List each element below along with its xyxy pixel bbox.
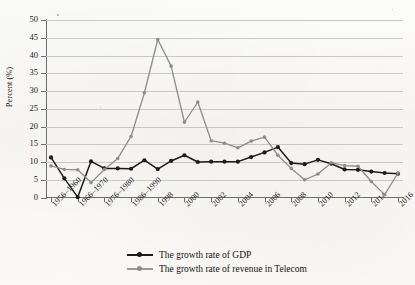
series-plot bbox=[0, 0, 415, 285]
chart-screenshot: 50454035302520151050 Percent (%) 1956–19… bbox=[0, 0, 415, 285]
data-point bbox=[262, 150, 266, 154]
data-point bbox=[116, 166, 120, 170]
data-point bbox=[183, 120, 187, 124]
data-point bbox=[370, 180, 374, 184]
legend-label-telecom: The growth rate of revenue in Telecom bbox=[159, 264, 307, 275]
data-point bbox=[209, 139, 213, 143]
data-point bbox=[89, 159, 93, 163]
data-point bbox=[356, 164, 360, 168]
data-point bbox=[316, 172, 320, 176]
data-point bbox=[369, 169, 373, 173]
data-point bbox=[196, 100, 200, 104]
series-line bbox=[51, 147, 398, 197]
data-point bbox=[263, 135, 267, 139]
data-point bbox=[329, 161, 333, 165]
data-point bbox=[343, 167, 347, 171]
data-point bbox=[396, 171, 400, 175]
data-point bbox=[169, 159, 173, 163]
legend: The growth rate of GDP The growth rate o… bbox=[127, 248, 377, 276]
data-point bbox=[89, 181, 93, 185]
data-point bbox=[129, 167, 133, 171]
data-point bbox=[76, 168, 80, 172]
data-point bbox=[223, 141, 227, 145]
data-point bbox=[156, 38, 160, 42]
data-point bbox=[383, 171, 387, 175]
data-point bbox=[236, 160, 240, 164]
data-point bbox=[222, 160, 226, 164]
data-point bbox=[316, 158, 320, 162]
data-point bbox=[249, 139, 253, 143]
data-point bbox=[249, 155, 253, 159]
data-point bbox=[196, 160, 200, 164]
data-point bbox=[169, 64, 173, 68]
data-point bbox=[143, 91, 147, 95]
data-point bbox=[276, 153, 280, 157]
data-point bbox=[343, 164, 347, 168]
data-point bbox=[276, 145, 280, 149]
data-point bbox=[302, 162, 306, 166]
data-point bbox=[182, 153, 186, 157]
data-point bbox=[49, 155, 53, 159]
series-line bbox=[51, 40, 398, 195]
data-point bbox=[289, 167, 293, 171]
data-point bbox=[103, 168, 107, 172]
data-point bbox=[62, 176, 66, 180]
data-point bbox=[383, 193, 387, 197]
data-point bbox=[289, 161, 293, 165]
legend-item-gdp[interactable]: The growth rate of GDP bbox=[127, 248, 377, 262]
data-point bbox=[63, 168, 67, 172]
legend-item-telecom[interactable]: The growth rate of revenue in Telecom bbox=[127, 262, 377, 276]
data-point bbox=[116, 157, 120, 161]
data-point bbox=[236, 146, 240, 150]
data-point bbox=[303, 178, 307, 182]
data-point bbox=[209, 160, 213, 164]
legend-label-gdp: The growth rate of GDP bbox=[159, 250, 251, 261]
data-point bbox=[129, 135, 133, 139]
data-point bbox=[142, 158, 146, 162]
data-point bbox=[49, 164, 53, 168]
legend-swatch-telecom-icon bbox=[127, 264, 153, 274]
legend-swatch-gdp-icon bbox=[127, 250, 153, 260]
data-point bbox=[156, 167, 160, 171]
data-point bbox=[76, 195, 80, 199]
